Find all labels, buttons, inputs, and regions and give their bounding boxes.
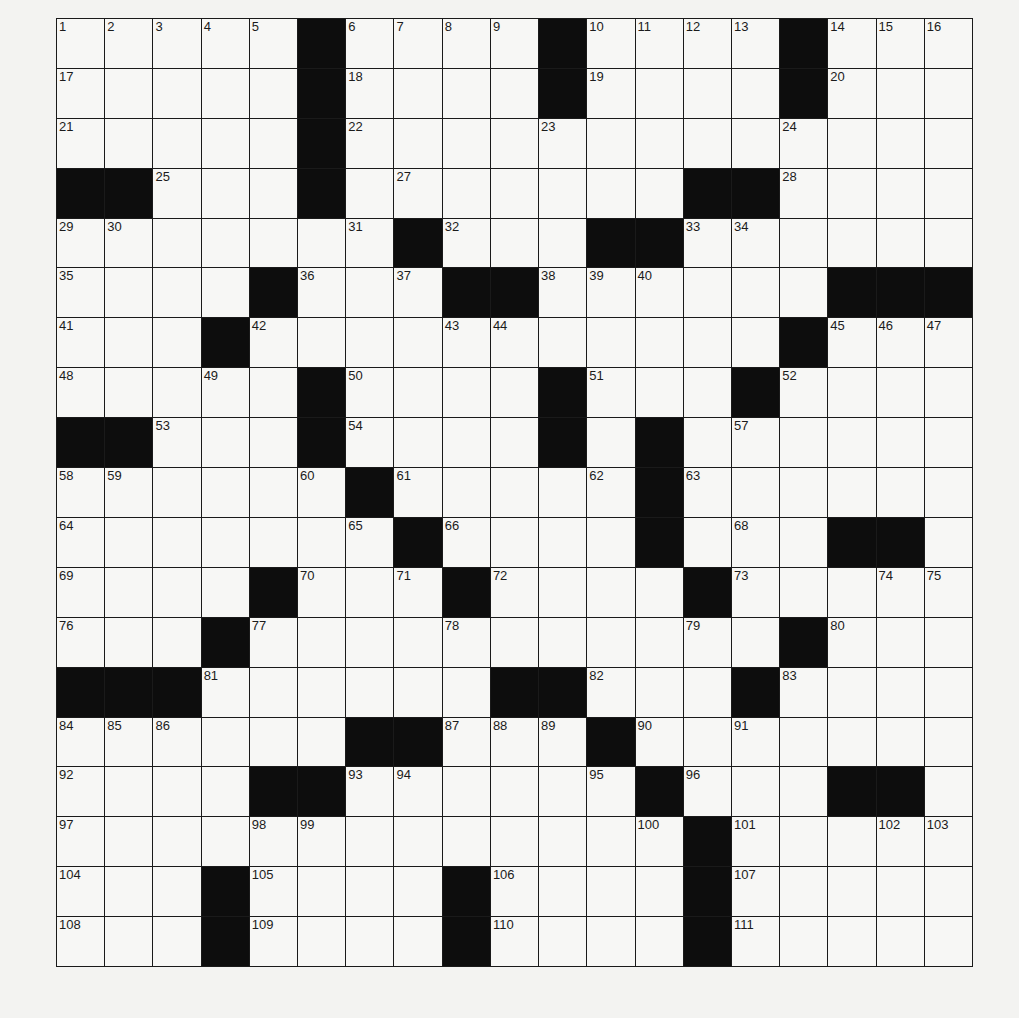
grid-cell[interactable]: 85 [105, 718, 152, 767]
grid-cell[interactable]: 83 [780, 668, 827, 717]
grid-cell[interactable] [105, 518, 152, 567]
grid-cell[interactable]: 39 [587, 268, 634, 317]
grid-cell[interactable] [394, 318, 441, 367]
grid-cell[interactable]: 36 [298, 268, 345, 317]
grid-cell[interactable] [491, 69, 538, 118]
grid-cell[interactable]: 35 [57, 268, 104, 317]
grid-cell[interactable] [153, 219, 200, 268]
grid-cell[interactable] [780, 867, 827, 916]
grid-cell[interactable]: 78 [443, 618, 490, 667]
grid-cell[interactable] [153, 268, 200, 317]
grid-cell[interactable] [153, 318, 200, 367]
grid-cell[interactable]: 51 [587, 368, 634, 417]
grid-cell[interactable]: 108 [57, 917, 104, 966]
grid-cell[interactable] [539, 917, 586, 966]
grid-cell[interactable] [587, 817, 634, 866]
grid-cell[interactable] [828, 668, 875, 717]
grid-cell[interactable]: 6 [346, 19, 393, 68]
grid-cell[interactable] [877, 468, 924, 517]
grid-cell[interactable] [250, 518, 297, 567]
grid-cell[interactable]: 31 [346, 219, 393, 268]
grid-cell[interactable] [202, 817, 249, 866]
grid-cell[interactable]: 25 [153, 169, 200, 218]
grid-cell[interactable]: 1 [57, 19, 104, 68]
grid-cell[interactable] [298, 318, 345, 367]
grid-cell[interactable]: 22 [346, 119, 393, 168]
grid-cell[interactable] [298, 518, 345, 567]
grid-cell[interactable] [298, 618, 345, 667]
grid-cell[interactable]: 86 [153, 718, 200, 767]
grid-cell[interactable] [394, 69, 441, 118]
grid-cell[interactable] [828, 468, 875, 517]
grid-cell[interactable] [780, 468, 827, 517]
grid-cell[interactable] [587, 568, 634, 617]
grid-cell[interactable] [250, 219, 297, 268]
grid-cell[interactable]: 96 [684, 767, 731, 816]
grid-cell[interactable] [828, 718, 875, 767]
grid-cell[interactable]: 64 [57, 518, 104, 567]
grid-cell[interactable] [491, 368, 538, 417]
grid-cell[interactable] [636, 119, 683, 168]
grid-cell[interactable]: 3 [153, 19, 200, 68]
grid-cell[interactable] [636, 917, 683, 966]
grid-cell[interactable] [202, 418, 249, 467]
grid-cell[interactable]: 29 [57, 219, 104, 268]
grid-cell[interactable] [491, 219, 538, 268]
grid-cell[interactable] [539, 867, 586, 916]
grid-cell[interactable] [539, 817, 586, 866]
grid-cell[interactable]: 60 [298, 468, 345, 517]
grid-cell[interactable] [443, 368, 490, 417]
grid-cell[interactable] [346, 668, 393, 717]
grid-cell[interactable] [491, 767, 538, 816]
grid-cell[interactable]: 63 [684, 468, 731, 517]
grid-cell[interactable] [925, 767, 972, 816]
grid-cell[interactable]: 5 [250, 19, 297, 68]
grid-cell[interactable]: 43 [443, 318, 490, 367]
grid-cell[interactable]: 49 [202, 368, 249, 417]
grid-cell[interactable]: 23 [539, 119, 586, 168]
grid-cell[interactable] [780, 767, 827, 816]
grid-cell[interactable]: 47 [925, 318, 972, 367]
grid-cell[interactable]: 79 [684, 618, 731, 667]
grid-cell[interactable]: 46 [877, 318, 924, 367]
grid-cell[interactable] [925, 169, 972, 218]
grid-cell[interactable] [394, 917, 441, 966]
grid-cell[interactable] [684, 318, 731, 367]
grid-cell[interactable] [828, 368, 875, 417]
grid-cell[interactable] [153, 468, 200, 517]
grid-cell[interactable]: 110 [491, 917, 538, 966]
grid-cell[interactable]: 18 [346, 69, 393, 118]
grid-cell[interactable] [153, 767, 200, 816]
grid-cell[interactable] [828, 169, 875, 218]
grid-cell[interactable] [780, 219, 827, 268]
grid-cell[interactable] [732, 468, 779, 517]
grid-cell[interactable]: 59 [105, 468, 152, 517]
grid-cell[interactable] [202, 767, 249, 816]
grid-cell[interactable] [587, 518, 634, 567]
grid-cell[interactable]: 11 [636, 19, 683, 68]
grid-cell[interactable] [732, 318, 779, 367]
grid-cell[interactable] [539, 767, 586, 816]
grid-cell[interactable] [202, 169, 249, 218]
grid-cell[interactable] [346, 867, 393, 916]
grid-cell[interactable]: 44 [491, 318, 538, 367]
grid-cell[interactable] [780, 518, 827, 567]
grid-cell[interactable] [684, 418, 731, 467]
grid-cell[interactable]: 42 [250, 318, 297, 367]
grid-cell[interactable] [202, 518, 249, 567]
grid-cell[interactable]: 45 [828, 318, 875, 367]
grid-cell[interactable] [636, 368, 683, 417]
grid-cell[interactable] [877, 69, 924, 118]
grid-cell[interactable] [443, 418, 490, 467]
grid-cell[interactable] [780, 268, 827, 317]
grid-cell[interactable] [202, 69, 249, 118]
grid-cell[interactable] [153, 618, 200, 667]
grid-cell[interactable] [443, 767, 490, 816]
grid-cell[interactable] [877, 917, 924, 966]
grid-cell[interactable] [105, 867, 152, 916]
grid-cell[interactable]: 37 [394, 268, 441, 317]
grid-cell[interactable] [394, 668, 441, 717]
grid-cell[interactable] [443, 668, 490, 717]
grid-cell[interactable] [636, 867, 683, 916]
grid-cell[interactable] [877, 119, 924, 168]
